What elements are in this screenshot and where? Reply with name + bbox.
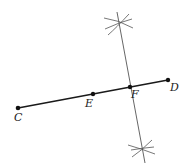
point-c — [16, 106, 21, 111]
top-arc-intersection — [104, 14, 133, 35]
point-e — [91, 92, 95, 96]
label-c: C — [14, 111, 23, 124]
label-e: E — [84, 97, 93, 110]
label-f: F — [130, 88, 139, 101]
geometry-diagram: C E F D — [0, 0, 187, 166]
label-d: D — [169, 81, 179, 94]
